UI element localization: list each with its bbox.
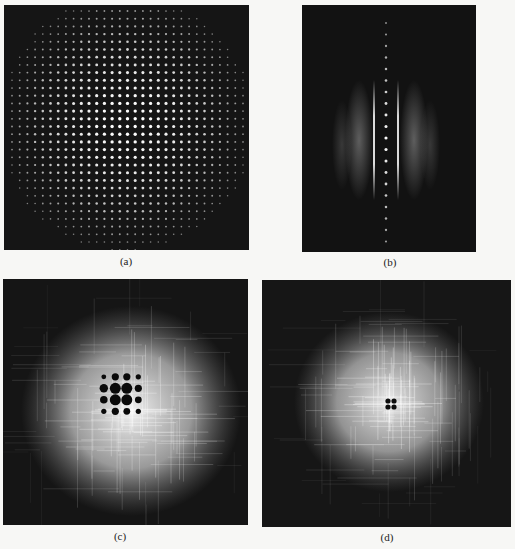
halo-dark-array-graphic bbox=[3, 279, 248, 525]
panel-c-halo-dark-spots bbox=[3, 279, 248, 525]
halo-cross-graphic bbox=[262, 280, 511, 527]
panel-d-halo-cross bbox=[262, 280, 511, 527]
panel-a-lattice-diffraction bbox=[4, 5, 249, 250]
caption-a: (a) bbox=[106, 255, 146, 267]
caption-c: (c) bbox=[100, 530, 140, 542]
panel-b-row-diffraction bbox=[302, 5, 476, 252]
lattice-spots-graphic bbox=[4, 5, 249, 250]
caption-d: (d) bbox=[367, 531, 407, 543]
row-spots-graphic bbox=[302, 5, 476, 252]
caption-b: (b) bbox=[370, 256, 410, 268]
